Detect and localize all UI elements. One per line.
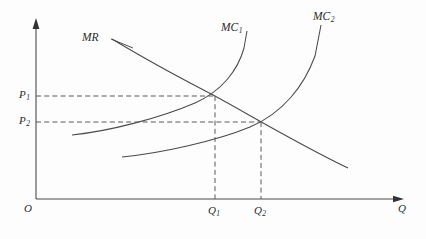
x-axis bbox=[36, 196, 404, 202]
price-tick-p2-subscript: 2 bbox=[26, 119, 30, 128]
x-axis-label: Q bbox=[398, 203, 406, 214]
quantity-tick-label-q1: Q1 bbox=[208, 205, 220, 217]
mr-curve bbox=[112, 39, 348, 168]
mc2-curve bbox=[122, 25, 321, 157]
curve-label-mc2-base: MC bbox=[313, 10, 330, 22]
curve-label-mc1: MC1 bbox=[221, 22, 242, 34]
curve-label-mc2: MC2 bbox=[313, 11, 334, 23]
origin-label: O bbox=[24, 203, 32, 214]
mc1-curve bbox=[72, 31, 247, 135]
price-tick-p2-base: P bbox=[19, 114, 26, 126]
price-tick-p1-base: P bbox=[19, 88, 26, 100]
curve-label-mc1-subscript: 1 bbox=[239, 26, 243, 35]
y-axis bbox=[33, 18, 40, 199]
curve-label-mr: MR bbox=[82, 32, 99, 44]
quantity-tick-q2-base: Q bbox=[254, 204, 262, 216]
quantity-tick-q2-subscript: 2 bbox=[262, 209, 266, 218]
price-tick-label-p1: P1 bbox=[19, 89, 30, 101]
price-tick-label-p2: P2 bbox=[19, 115, 30, 127]
curve-label-mc1-base: MC bbox=[221, 21, 238, 33]
quantity-tick-label-q2: Q2 bbox=[254, 205, 266, 217]
quantity-tick-q1-base: Q bbox=[208, 204, 216, 216]
economics-diagram: MR MC1 MC2 P1 P2 Q1 Q2 O Q bbox=[0, 0, 426, 239]
quantity-tick-q1-subscript: 1 bbox=[216, 209, 220, 218]
curve-label-mc2-subscript: 2 bbox=[331, 15, 335, 24]
price-tick-p1-subscript: 1 bbox=[26, 93, 30, 102]
